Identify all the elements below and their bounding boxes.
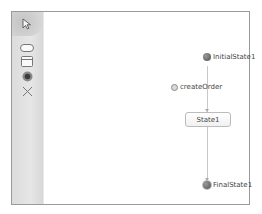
event-icon [171, 84, 178, 91]
final-state-node[interactable] [203, 181, 211, 189]
compartment-rect-icon [21, 56, 33, 67]
x-cross-icon [22, 86, 33, 97]
transition-line-state-to-final[interactable] [207, 127, 208, 181]
delete-tool[interactable] [18, 84, 36, 98]
filled-circle-icon [22, 71, 33, 82]
transition-event-label[interactable]: createOrder [180, 83, 222, 91]
state-node[interactable]: State1 [185, 112, 231, 127]
rounded-rect-icon [20, 44, 34, 52]
pointer-tool[interactable] [18, 17, 36, 31]
state-tool[interactable] [18, 41, 36, 55]
initial-state-node[interactable] [203, 53, 211, 61]
tool-palette [12, 12, 44, 204]
composite-state-tool[interactable] [18, 54, 36, 68]
diagram-canvas[interactable]: InitialState1 createOrder State1 FinalSt… [44, 12, 249, 204]
initial-state-label: InitialState1 [213, 53, 255, 61]
state-label: State1 [197, 116, 220, 124]
pointer-arrow-icon [22, 18, 32, 30]
diagram-editor-frame: InitialState1 createOrder State1 FinalSt… [11, 11, 250, 205]
final-state-label: FinalState1 [213, 181, 252, 189]
initial-state-tool[interactable] [18, 69, 36, 83]
